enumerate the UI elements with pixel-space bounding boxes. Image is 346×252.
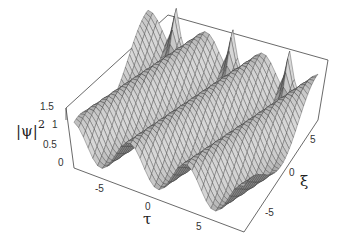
y-tick-label: 0 [289, 167, 295, 178]
x-tick-label: 5 [196, 221, 202, 232]
x-axis-label: τ [143, 210, 151, 228]
z-tick-label: 0.5 [43, 139, 57, 150]
x-tick-label: -5 [95, 183, 104, 194]
surface-mesh [74, 8, 318, 211]
y-axis-label: ξ [300, 172, 308, 190]
z-tick-label: 1 [52, 119, 58, 130]
surface-plot: 1.5 1 0.5 0 |ψ|2 -5 0 5 τ -5 0 5 ξ [0, 0, 346, 252]
x-axis: -5 0 5 τ [95, 183, 202, 232]
y-tick-label: 5 [310, 134, 316, 145]
surface-patch [311, 74, 318, 77]
z-tick-label: 0 [58, 157, 64, 168]
z-axis-label: |ψ|2 [16, 118, 45, 140]
z-tick-label: 1.5 [40, 101, 54, 112]
y-tick-label: -5 [265, 207, 274, 218]
z-axis: 1.5 1 0.5 0 |ψ|2 [16, 101, 64, 168]
